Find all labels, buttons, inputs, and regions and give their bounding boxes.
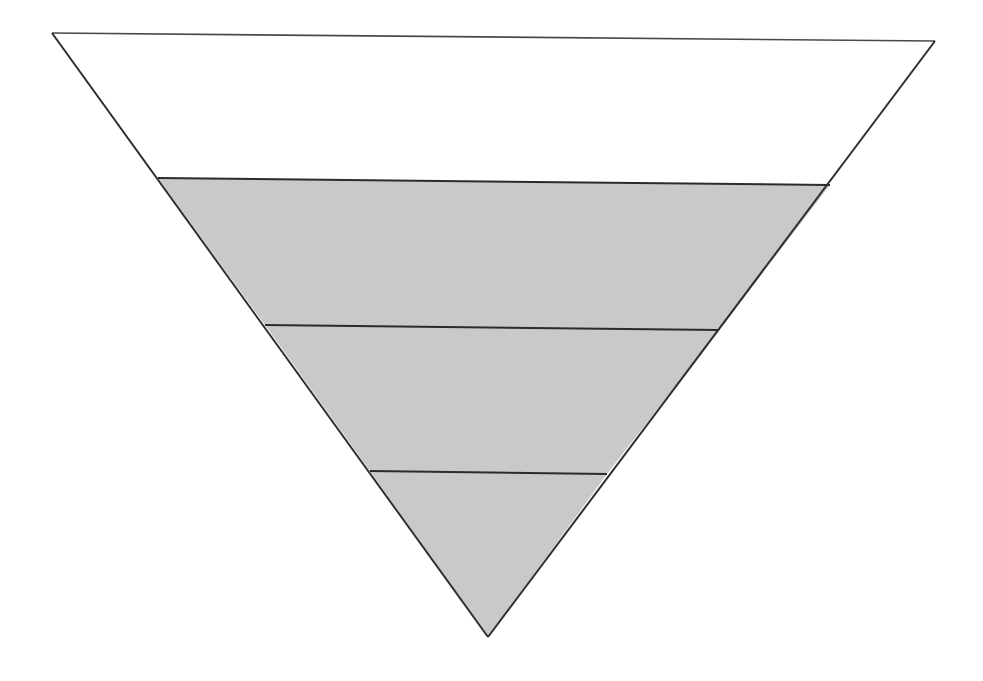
funnel-band-2-fill [158, 178, 830, 330]
inverted-triangle-funnel-diagram [0, 0, 983, 681]
funnel-band-4-fill [370, 471, 607, 637]
funnel-band-1-fill [52, 33, 935, 185]
figure-canvas [0, 0, 983, 681]
funnel-band-3-fill [265, 325, 719, 474]
